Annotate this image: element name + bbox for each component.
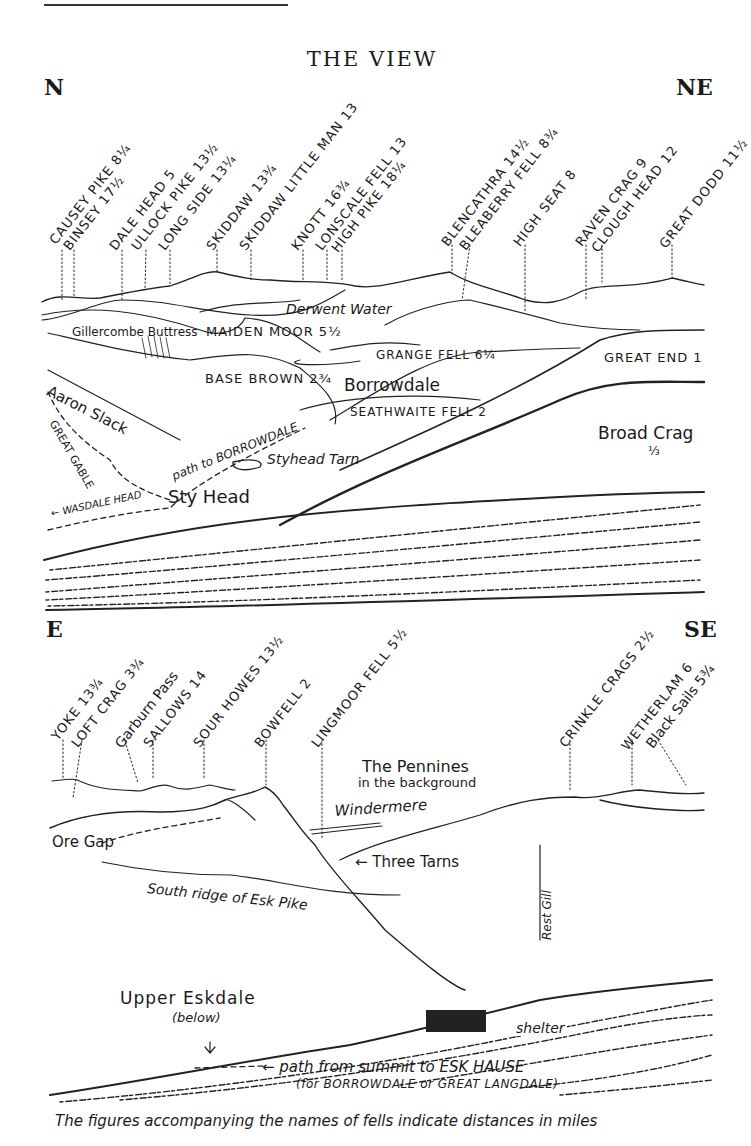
label-path-from-summit: ← path from summit to ESK HAUSE (262, 1058, 525, 1076)
label-upper-eskdale: Upper Eskdale (120, 988, 256, 1008)
label-borrowdale: Borrowdale (344, 375, 440, 395)
label-styhead-tarn: Styhead Tarn (267, 452, 317, 467)
label-pennines-sub: in the background (358, 775, 476, 790)
label-rest-gill: Rest Gill (540, 890, 554, 940)
label-three-tarns: ← Three Tarns (355, 853, 459, 871)
label-seathwaite-fell: SEATHWAITE FELL 2 (350, 405, 430, 420)
label-pennines: The Pennines (362, 757, 469, 776)
label-base-brown: BASE BROWN 2¾ (205, 371, 267, 387)
label-broad-crag-distance: ⅓ (648, 444, 660, 458)
label-great-end: GREAT END 1 (604, 350, 703, 365)
label-below: (below) (172, 1010, 221, 1025)
label-grange-fell: GRANGE FELL 6¼ (376, 348, 496, 362)
label-derwent-water: Derwent Water (286, 302, 356, 317)
label-broad-crag: Broad Crag (598, 423, 693, 443)
caption: The figures accompanying the names of fe… (55, 1112, 597, 1130)
label-sty-head: Sty Head (168, 486, 250, 507)
label-shelter: shelter (514, 1020, 567, 1036)
label-path-sub: (for BORROWDALE or GREAT LANGDALE) (296, 1077, 559, 1091)
label-gillercombe-buttress: Gillercombe Buttress (72, 325, 198, 339)
label-maiden-moor: MAIDEN MOOR 5½ (206, 323, 286, 340)
label-ore-gap: Ore Gap (52, 834, 92, 851)
